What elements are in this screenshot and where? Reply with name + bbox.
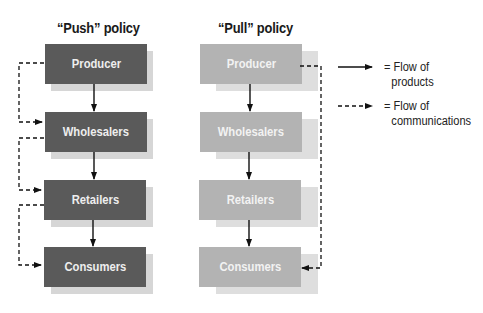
push-product-arrows [93, 84, 94, 246]
legend-label: products [384, 75, 434, 90]
legend-products: = Flow of products [384, 60, 434, 90]
pull-communication-arrow [300, 66, 321, 268]
legend-label: = Flow of [384, 60, 434, 75]
connectors-layer [0, 0, 483, 313]
legend-label: communications [384, 114, 471, 129]
pull-product-arrows [249, 84, 250, 246]
push-communication-arrows [19, 63, 44, 265]
legend-communications: = Flow of communications [384, 99, 471, 129]
legend-label: = Flow of [384, 99, 471, 114]
